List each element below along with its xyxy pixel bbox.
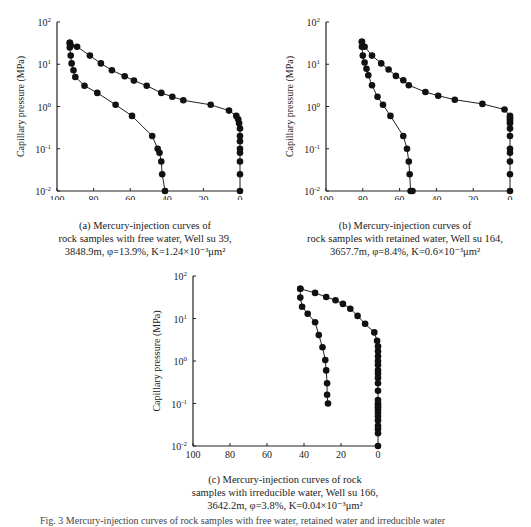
x-tick-label: 0 — [376, 449, 381, 460]
data-point — [325, 400, 332, 407]
injection-curve — [300, 289, 378, 446]
x-tick-label: 20 — [336, 449, 346, 460]
y-tick-label: 100 — [174, 355, 188, 367]
data-point — [322, 357, 329, 364]
y-tick-label: 101 — [174, 313, 188, 325]
data-point — [316, 332, 323, 339]
y-tick-label: 102 — [174, 270, 188, 282]
x-tick-label: 60 — [262, 449, 272, 460]
x-tick-label: 80 — [225, 449, 235, 460]
caption-a: (a) Mercury-injection curves of rock sam… — [20, 219, 270, 258]
data-point — [375, 397, 382, 404]
data-point — [371, 329, 378, 336]
x-tick-label: 40 — [299, 449, 309, 460]
caption-c: (c) Mercury-injection curves of rock sam… — [160, 473, 410, 512]
data-point — [375, 443, 382, 450]
data-point — [375, 387, 382, 394]
y-tick-label: 10-1 — [171, 398, 187, 410]
data-point — [312, 319, 319, 326]
y-axis-label: Capillary pressure (MPa) — [151, 310, 163, 411]
data-point — [375, 343, 382, 350]
data-point — [323, 294, 330, 301]
data-point — [319, 344, 326, 351]
caption-b: (b) Mercury-injection curves of rock sam… — [280, 219, 530, 258]
figure-caption: Fig. 3 Mercury-injection curves of rock … — [40, 515, 445, 526]
data-point — [374, 337, 381, 344]
data-point — [347, 305, 354, 312]
data-point — [362, 321, 369, 328]
data-point — [340, 301, 347, 308]
data-point — [323, 367, 330, 374]
x-tick-label: 100 — [186, 449, 201, 460]
data-point — [312, 290, 319, 297]
data-point — [297, 286, 304, 293]
data-point — [354, 313, 361, 320]
data-point — [324, 380, 331, 387]
data-point — [332, 297, 339, 304]
data-point — [304, 310, 311, 317]
data-point — [297, 294, 304, 301]
data-point — [324, 392, 331, 399]
data-point — [299, 303, 306, 310]
